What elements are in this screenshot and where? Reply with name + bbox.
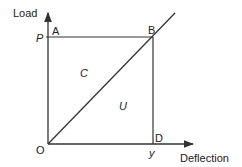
diagonal-ob — [48, 13, 175, 144]
x-axis-label: Deflection — [180, 153, 229, 164]
point-y-label: y — [149, 148, 155, 159]
region-c-label: C — [80, 68, 88, 79]
point-d-label: D — [155, 133, 163, 144]
region-u-label: U — [119, 101, 127, 112]
origin-label: O — [36, 145, 45, 156]
y-axis-label: Load — [13, 8, 37, 19]
point-p-label: P — [36, 33, 43, 44]
point-b-label: B — [148, 25, 155, 36]
point-a-label: A — [52, 26, 59, 37]
load-deflection-diagram — [0, 0, 242, 167]
